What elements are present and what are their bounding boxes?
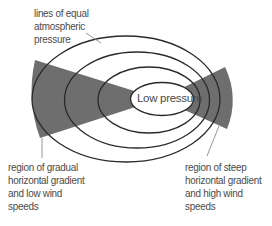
leader-line-steep — [207, 126, 219, 156]
label-line: lines of equal — [34, 7, 89, 20]
label-line: and high wind — [185, 187, 261, 200]
label-line: speeds — [8, 200, 84, 213]
label-line: region of steep — [185, 161, 261, 174]
label-line: speeds — [185, 200, 261, 213]
label-line: horizontal gradient — [8, 174, 84, 187]
label-line: horizontal gradient — [185, 174, 261, 187]
label-line: pressure — [34, 33, 89, 46]
gradual-region-label: region of gradual horizontal gradient an… — [8, 161, 84, 213]
label-line: and low wind — [8, 187, 84, 200]
steep-region-label: region of steep horizontal gradient and … — [185, 161, 261, 213]
low-pressure-label: Low pressure — [137, 92, 191, 105]
label-line: atmospheric — [34, 20, 89, 33]
isobar-label: lines of equal atmospheric pressure — [34, 7, 89, 46]
label-line: region of gradual — [8, 161, 84, 174]
